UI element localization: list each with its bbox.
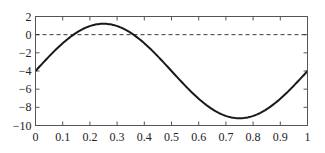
y-tick-label: 2: [26, 10, 32, 24]
x-tick-label: 0.7: [218, 130, 233, 144]
data-curve: [36, 24, 308, 118]
y-tick-label: 0: [26, 28, 32, 42]
x-tick-label: 0.9: [273, 130, 288, 144]
x-tick-label: 0.1: [55, 130, 70, 144]
y-tick-label: −8: [19, 100, 32, 114]
y-tick-label: −4: [19, 64, 32, 78]
x-tick-label: 0: [33, 130, 39, 144]
y-tick-label: −6: [19, 82, 32, 96]
x-tick-label: 0.3: [110, 130, 125, 144]
y-tick-label: −2: [19, 46, 32, 60]
x-tick-label: 0.2: [82, 130, 97, 144]
x-tick-label: 0.5: [164, 130, 179, 144]
x-tick-label: 0.6: [191, 130, 206, 144]
x-tick-label: 0.8: [246, 130, 261, 144]
x-tick-label: 1: [305, 130, 311, 144]
line-chart: 00.10.20.30.40.50.60.70.80.9120−2−4−6−8−…: [0, 0, 325, 153]
x-tick-label: 0.4: [137, 130, 152, 144]
tick-labels: 00.10.20.30.40.50.60.70.80.9120−2−4−6−8−…: [13, 10, 311, 145]
y-tick-label: −10: [13, 119, 32, 133]
